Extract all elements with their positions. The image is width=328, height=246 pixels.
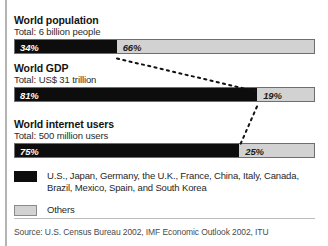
bar-label-dark-world-internet-users: 75% <box>20 145 39 156</box>
bar-label-dark-world-gdp: 81% <box>20 89 39 100</box>
source-divider <box>14 218 315 219</box>
group-world-gdp: World GDP Total: US$ 31 trillion 81% 19% <box>14 62 316 102</box>
legend-label-others: Others <box>47 204 75 216</box>
source-note: Source: U.S. Census Bureau 2002, IMF Eco… <box>14 227 269 237</box>
group-world-internet-users: World internet users Total: 500 million … <box>14 118 316 158</box>
stacked-bar-figure: World population Total: 6 billion people… <box>0 0 328 246</box>
legend-label-selected-countries: U.S., Japan, Germany, the U.K., France, … <box>47 170 316 193</box>
group-title-world-population: World population <box>14 14 316 26</box>
group-total-world-population: Total: 6 billion people <box>14 26 316 37</box>
group-title-world-internet-users: World internet users <box>14 118 316 130</box>
bar-segment-dark-world-internet-users <box>15 144 239 157</box>
bar-world-population: 34% 66% <box>14 39 315 54</box>
bar-world-gdp: 81% 19% <box>14 87 315 102</box>
legend-row-others: Others <box>14 204 316 216</box>
figure-content: World population Total: 6 billion people… <box>14 0 316 246</box>
bar-label-dark-world-population: 34% <box>20 41 39 52</box>
bar-label-light-world-gdp: 19% <box>263 89 282 100</box>
group-total-world-gdp: Total: US$ 31 trillion <box>14 74 316 85</box>
legend-row-selected-countries: U.S., Japan, Germany, the U.K., France, … <box>14 170 316 193</box>
legend-swatch-dark-icon <box>14 171 37 182</box>
legend: U.S., Japan, Germany, the U.K., France, … <box>14 170 316 216</box>
bar-label-light-world-internet-users: 25% <box>245 145 264 156</box>
bar-label-light-world-population: 66% <box>123 41 142 52</box>
left-margin-rule <box>5 0 7 246</box>
group-world-population: World population Total: 6 billion people… <box>14 14 316 54</box>
bar-segment-dark-world-gdp <box>15 88 257 101</box>
group-title-world-gdp: World GDP <box>14 62 316 74</box>
group-total-world-internet-users: Total: 500 million users <box>14 130 316 141</box>
bar-world-internet-users: 75% 25% <box>14 143 315 158</box>
legend-swatch-light-icon <box>14 205 37 216</box>
